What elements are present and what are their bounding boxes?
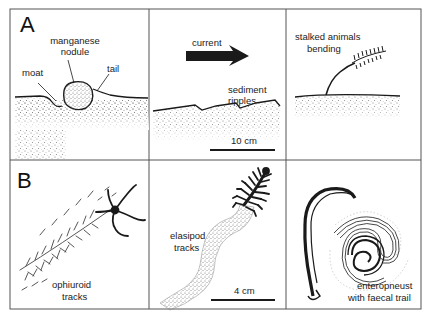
label-ripples: ripples [228,95,256,106]
label-scale-4cm: 4 cm [234,285,255,296]
panel-label-b: B [17,170,32,192]
label-ophiuroid-tracks: tracks [62,291,87,302]
label-stalked-animals: stalked animals [295,31,360,42]
label-nodule: nodule [44,46,106,57]
panel-label-a: A [20,14,35,36]
stalked-animal-stem [326,63,355,95]
ophiuroid-scene [20,185,145,290]
label-current: current [192,37,222,48]
label-tail: tail [107,63,119,74]
label-manganese: manganese [44,35,106,46]
stalked-animal-crown [352,46,386,69]
label-elasipod-tracks: tracks [174,242,199,253]
label-elasipod: elasipod [170,230,205,241]
label-enteropneust: enteropneust [357,280,412,291]
ophiuroid-body [96,185,145,236]
label-ophiuroid: ophiuroid [52,279,91,290]
current-scene [153,45,281,150]
ophiuroid-tracks [20,187,116,290]
label-sediment: sediment [228,84,267,95]
label-bending: bending [307,43,341,54]
current-arrow-icon [186,45,249,66]
label-faecal-trail: with faecal trail [348,292,411,303]
label-scale-10cm: 10 cm [231,135,257,146]
stalked-animal-scene [295,46,401,122]
label-moat: moat [22,67,43,78]
manganese-nodule [64,82,93,110]
